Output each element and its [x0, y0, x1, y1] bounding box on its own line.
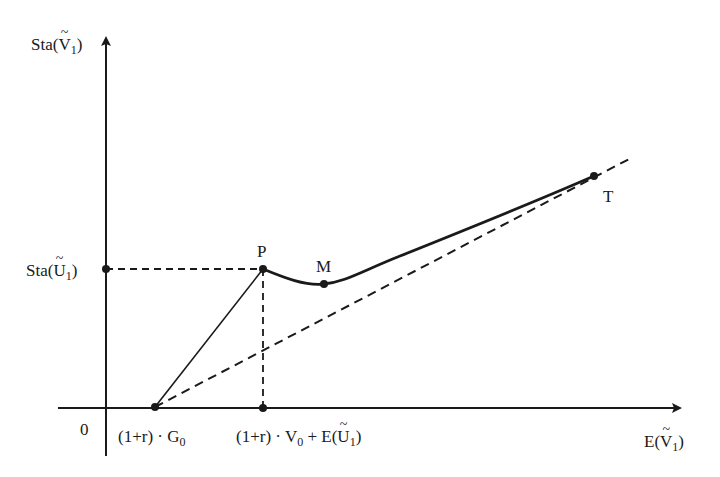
- y-tick-prefix: Sta(: [26, 261, 53, 280]
- x-label-var: V: [660, 433, 672, 450]
- origin-label: 0: [80, 421, 89, 438]
- point-p: [259, 265, 267, 273]
- y-label-var: V: [58, 36, 70, 53]
- x-tick-v0-end: ): [356, 427, 362, 446]
- diagram-canvas: [0, 0, 720, 477]
- v0-dot: [259, 404, 267, 412]
- x-tick-g0-text: (1+r) · G: [118, 427, 180, 446]
- x-tick-g0-sub: 0: [180, 435, 186, 449]
- point-t: [590, 172, 598, 180]
- x-tick-v0-text: (1+r) · V: [236, 427, 297, 446]
- x-tick-label-g0: (1+r) · G0: [118, 428, 186, 448]
- y-tick-label-sta-u: Sta(U1): [26, 262, 77, 282]
- g0-dot: [151, 403, 159, 411]
- point-m: [320, 280, 328, 288]
- point-label-m: M: [316, 258, 331, 275]
- y-axis-label: Sta(V1): [31, 36, 82, 56]
- y-tick-var: U: [53, 262, 65, 279]
- y-tick-suffix: ): [72, 261, 78, 280]
- x-label-suffix: ): [678, 432, 684, 451]
- asymptote-line: [155, 157, 633, 407]
- x-label-prefix: E(: [644, 432, 660, 451]
- x-tick-label-v0: (1+r) · V0 + E(U1): [236, 428, 361, 448]
- y-label-prefix: Sta(: [31, 35, 58, 54]
- x-axis-label: E(V1): [644, 433, 684, 453]
- x-tick-v0-plus: + E(: [303, 427, 337, 446]
- point-label-t: T: [603, 188, 613, 205]
- y-label-suffix: ): [77, 35, 83, 54]
- efficient-curve: [263, 176, 594, 284]
- sta-u-dot: [102, 265, 110, 273]
- g0-to-p-line: [155, 269, 263, 407]
- point-label-p: P: [257, 243, 266, 260]
- x-tick-v0-var: U: [337, 428, 349, 445]
